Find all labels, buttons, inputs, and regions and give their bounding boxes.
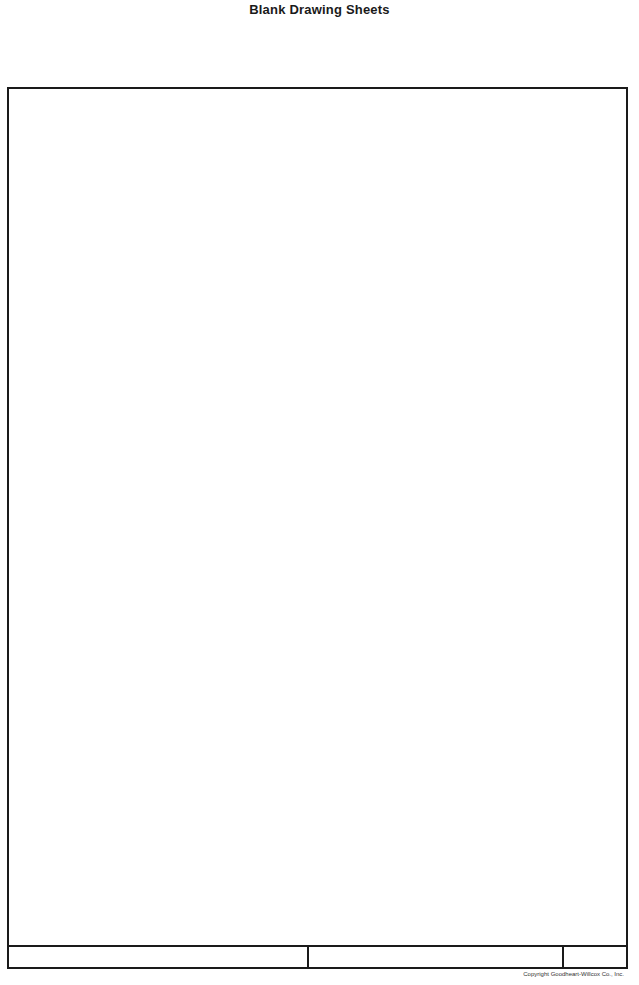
title-block-cell-number xyxy=(564,947,626,967)
title-block-cell-title xyxy=(309,947,564,967)
drawing-sheet-border xyxy=(7,87,628,969)
title-block xyxy=(9,945,626,967)
page-title: Blank Drawing Sheets xyxy=(0,2,639,17)
copyright-notice: Copyright Goodheart-Willcox Co., Inc. xyxy=(523,971,624,977)
title-block-cell-name xyxy=(9,947,309,967)
